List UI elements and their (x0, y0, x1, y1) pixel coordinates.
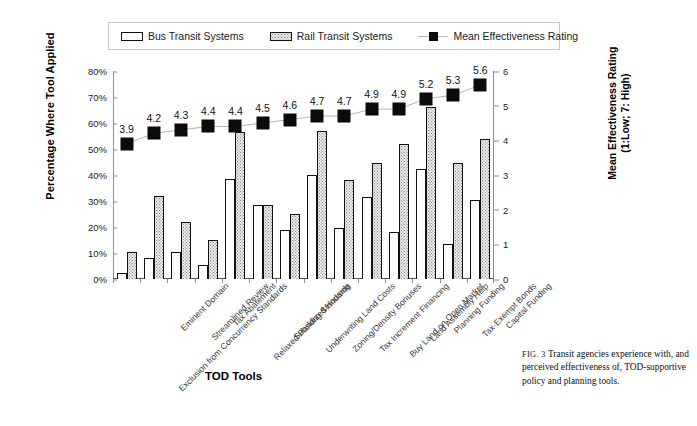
x-axis-category-label: Exclusion from Concurrency Standards (176, 281, 288, 393)
bus-swatch-icon (121, 32, 143, 41)
right-axis-tick: 6 (494, 66, 508, 77)
legend-item-rail: Rail Transit Systems (270, 30, 393, 42)
mean-rating-line (113, 71, 494, 279)
figure-caption: FIG. 3 Transit agencies experience with,… (522, 348, 690, 388)
left-axis-tick: 80% (88, 66, 113, 77)
left-axis-tick: 60% (88, 118, 113, 129)
right-axis-tick: 4 (494, 135, 508, 146)
figure-number: FIG. 3 (522, 350, 546, 359)
plot-area: 0%10%20%30%40%50%60%70%80% 0123456 3.94.… (113, 71, 494, 279)
y-axis-title-right-line2: (1:Low; 7: High) (619, 13, 632, 213)
left-axis-tick: 30% (88, 196, 113, 207)
left-axis-tick: 50% (88, 144, 113, 155)
mean-rating-swatch-icon (418, 32, 448, 41)
legend-label-mean-rating: Mean Effectiveness Rating (453, 30, 578, 42)
right-axis-tick: 5 (494, 100, 508, 111)
x-axis-category-labels: Exclusion from Concurrency StandardsEmin… (113, 281, 494, 377)
legend-item-mean-rating: Mean Effectiveness Rating (418, 30, 578, 42)
right-axis-tick: 1 (494, 239, 508, 250)
legend-item-bus: Bus Transit Systems (121, 30, 244, 42)
rail-swatch-icon (270, 32, 292, 41)
figure-caption-text: Transit agencies experience with, and pe… (522, 349, 689, 386)
right-axis-tick: 3 (494, 170, 508, 181)
left-axis-tick: 40% (88, 170, 113, 181)
y-axis-title-right-line1: Mean Effectiveness Rating (606, 13, 619, 213)
left-axis-tick: 70% (88, 92, 113, 103)
y-axis-title-left: Percentage Where Tool Applied (44, 6, 56, 226)
left-axis-tick: 10% (88, 248, 113, 259)
legend-label-bus: Bus Transit Systems (148, 30, 244, 42)
left-axis-tick: 20% (88, 222, 113, 233)
right-axis-tick: 2 (494, 204, 508, 215)
left-axis-tick: 0% (93, 274, 113, 285)
chart-legend: Bus Transit Systems Rail Transit Systems… (108, 22, 560, 50)
legend-label-rail: Rail Transit Systems (297, 30, 393, 42)
y-axis-title-right: Mean Effectiveness Rating (1:Low; 7: Hig… (606, 13, 632, 213)
